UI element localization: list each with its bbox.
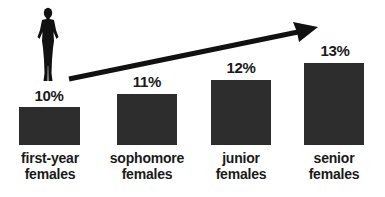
category-line-2: females — [279, 166, 385, 182]
category-line-1: first-year — [0, 150, 105, 166]
value-label-first-year: 10% — [9, 88, 89, 104]
category-label-senior: senior females — [279, 150, 385, 182]
category-label-first-year: first-year females — [0, 150, 105, 182]
value-label-senior: 13% — [295, 43, 375, 59]
category-line-2: females — [0, 166, 105, 182]
value-label-sophomore: 11% — [107, 74, 187, 90]
bar-senior — [304, 63, 364, 145]
value-label-junior: 12% — [201, 60, 281, 76]
category-line-1: senior — [279, 150, 385, 166]
female-silhouette-icon — [38, 8, 59, 81]
bar-chart: 10% 11% 12% 13% first-year females sopho… — [0, 0, 385, 197]
bar-junior — [211, 80, 271, 145]
bar-sophomore — [117, 94, 177, 145]
bar-first-year — [19, 107, 80, 145]
